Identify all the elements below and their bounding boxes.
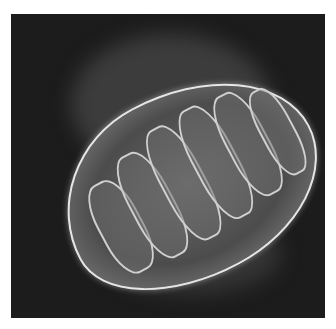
image-panel [11,14,325,318]
